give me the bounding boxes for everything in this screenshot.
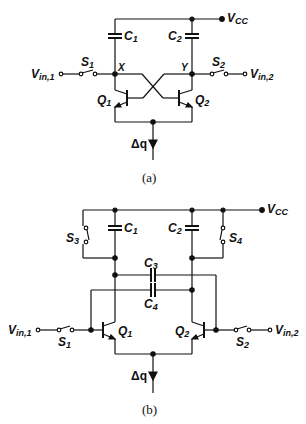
label-c4-b: C4	[144, 298, 158, 312]
label-delta-q-b: Δq	[131, 370, 147, 382]
label-vin2-a: Vin,2	[250, 68, 274, 82]
label-s2-a: S2	[212, 56, 225, 70]
circuit-figure: VCC C1 C2 S1 S2 X Y Q1 Q2 Vin,1 Vin,2 Δq…	[0, 0, 306, 424]
label-vin2-b: Vin,2	[275, 324, 299, 338]
caption-b: (b)	[142, 403, 157, 416]
label-s4-b: S4	[229, 232, 242, 246]
label-c3-b: C3	[144, 257, 158, 271]
label-s3-b: S3	[66, 232, 79, 246]
label-c1-b: C1	[124, 222, 138, 236]
label-vcc-b: VCC	[267, 203, 288, 217]
label-node-y: Y	[181, 63, 188, 73]
label-vin1-a: Vin,1	[31, 68, 55, 82]
label-c1-a: C1	[124, 30, 138, 44]
circuit-schematic	[0, 0, 306, 424]
label-vin1-b: Vin,1	[8, 324, 32, 338]
label-q2-a: Q2	[195, 94, 209, 108]
label-node-x: X	[118, 63, 125, 73]
caption-a: (a)	[142, 171, 156, 184]
label-q1-a: Q1	[97, 94, 111, 108]
label-q2-b: Q2	[175, 325, 189, 339]
label-vcc-a: VCC	[227, 12, 248, 26]
label-c2-a: C2	[168, 30, 182, 44]
label-delta-q-a: Δq	[131, 138, 147, 150]
label-s2-b: S2	[236, 336, 249, 350]
label-c2-b: C2	[168, 222, 182, 236]
circuit-a	[59, 17, 247, 160]
label-q1-b: Q1	[118, 325, 132, 339]
label-s1-a: S1	[81, 56, 94, 70]
label-s1-b: S1	[58, 336, 71, 350]
